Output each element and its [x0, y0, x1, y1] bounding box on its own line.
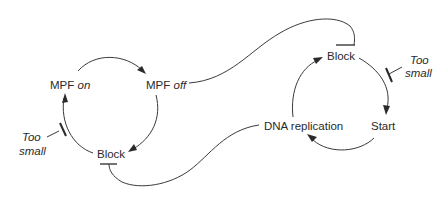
left-too-small-label: Too [22, 131, 41, 143]
right-block-label: Block [327, 50, 355, 62]
start-label: Start [371, 120, 396, 132]
inhibition-dna-replication-to-left-block [109, 125, 259, 186]
arrow-block-to-mpf-on [63, 98, 93, 153]
arrowhead-icon [313, 57, 323, 64]
arrow-mpf-off-to-block [133, 95, 158, 149]
arrowhead-icon [128, 144, 137, 152]
arrowhead-icon [307, 134, 317, 142]
left-block-label: Block [97, 148, 125, 160]
right-too-small-label: Too [410, 54, 429, 66]
too-small-link-left [47, 131, 59, 137]
arrow-dna-replication-to-block [292, 60, 318, 117]
arrow-mpf-on-to-mpf-off [78, 57, 142, 71]
mpf-on-label: MPF on [50, 79, 90, 91]
mpf-off-label: MPF off [146, 79, 188, 91]
arrow-block-to-start [359, 58, 388, 108]
dna-replication-label: DNA replication [264, 120, 343, 132]
too-small-link-right [389, 67, 402, 74]
inhibitor-tick-icon [386, 68, 392, 82]
inhibitor-tick-icon [60, 123, 66, 136]
right-too-small-label-2: small [405, 67, 432, 79]
arrowhead-icon [62, 93, 68, 103]
arrowhead-icon [383, 105, 390, 115]
left-too-small-label-2: small [19, 145, 46, 157]
cell-cycle-diagram: MPF on MPF off Block Too small Block Too… [0, 0, 443, 197]
arrow-start-to-dna-replication [313, 138, 374, 150]
